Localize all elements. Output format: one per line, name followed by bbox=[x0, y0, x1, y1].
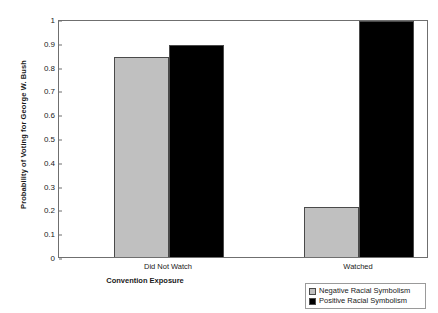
legend-swatch-icon bbox=[309, 298, 316, 305]
x-axis-label-1: Watched bbox=[343, 262, 372, 271]
y-tick-mark bbox=[59, 235, 62, 236]
y-tick-mark bbox=[59, 68, 62, 69]
x-axis-label-0: Did Not Watch bbox=[144, 262, 192, 271]
y-tick-mark bbox=[59, 92, 62, 93]
bar bbox=[114, 57, 169, 257]
y-tick-label: 0 bbox=[51, 255, 55, 263]
legend-swatch-icon bbox=[309, 288, 316, 295]
y-tick-label: 0.3 bbox=[44, 184, 55, 192]
chart-legend: Negative Racial SymbolismPositive Racial… bbox=[305, 283, 426, 309]
y-tick-mark bbox=[59, 163, 62, 164]
y-tick-mark bbox=[59, 140, 62, 141]
y-tick-mark bbox=[59, 116, 62, 117]
legend-item: Negative Racial Symbolism bbox=[309, 286, 422, 296]
y-tick-mark bbox=[59, 44, 62, 45]
y-tick-mark bbox=[59, 21, 62, 22]
legend-label: Negative Racial Symbolism bbox=[319, 287, 410, 295]
legend-label: Positive Racial Symbolism bbox=[319, 297, 407, 305]
y-tick-label: 0.5 bbox=[44, 136, 55, 144]
x-axis-title: Convention Exposure bbox=[0, 276, 290, 285]
y-tick-label: 0.9 bbox=[44, 41, 55, 49]
y-tick-label: 0.2 bbox=[44, 207, 55, 215]
bar bbox=[359, 21, 414, 257]
y-tick-label: 0.7 bbox=[44, 88, 55, 96]
y-tick-label: 0.4 bbox=[44, 160, 55, 168]
bar bbox=[304, 207, 359, 257]
y-tick-label: 1 bbox=[51, 17, 55, 25]
y-tick-label: 0.8 bbox=[44, 65, 55, 73]
bar-chart: Probability of Voting for George W. Bush… bbox=[0, 0, 438, 313]
y-tick-label: 0.1 bbox=[44, 231, 55, 239]
y-axis-title: Probability of Voting for George W. Bush bbox=[19, 35, 28, 235]
y-tick-mark bbox=[59, 259, 62, 260]
bar bbox=[169, 45, 224, 257]
legend-item: Positive Racial Symbolism bbox=[309, 296, 422, 306]
y-tick-mark bbox=[59, 187, 62, 188]
y-tick-label: 0.6 bbox=[44, 112, 55, 120]
plot-area: 00.10.20.30.40.50.60.70.80.91 bbox=[58, 20, 428, 258]
y-tick-mark bbox=[59, 211, 62, 212]
